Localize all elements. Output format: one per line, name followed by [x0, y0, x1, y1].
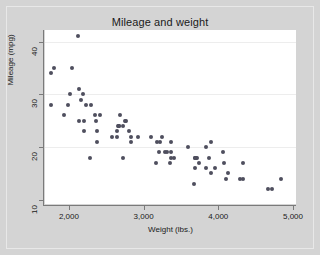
data-point — [186, 145, 190, 149]
data-point — [115, 129, 119, 133]
data-point — [270, 187, 274, 191]
y-axis-title-wrap: Mileage (mpg) — [22, 30, 36, 204]
data-point — [94, 119, 98, 123]
data-point — [77, 87, 81, 91]
data-point — [279, 177, 283, 181]
data-point — [81, 92, 85, 96]
gridline-y-40 — [45, 42, 296, 43]
x-tick-4000 — [218, 206, 219, 210]
x-tick-label-2000: 2,000 — [49, 212, 89, 221]
data-point — [82, 119, 86, 123]
data-point — [123, 119, 127, 123]
data-point — [209, 140, 213, 144]
data-point — [154, 161, 158, 165]
chart-title: Mileage and weight — [0, 16, 320, 28]
data-point — [77, 119, 81, 123]
data-point — [121, 156, 125, 160]
data-point — [169, 140, 173, 144]
x-tick-2000 — [69, 206, 70, 210]
data-point — [160, 135, 164, 139]
data-point — [66, 103, 70, 107]
data-point — [224, 177, 228, 181]
data-point — [209, 171, 213, 175]
data-point — [95, 140, 99, 144]
y-axis-title: Mileage (mpg) — [6, 0, 15, 147]
x-tick-label-4000: 4,000 — [198, 212, 238, 221]
data-point — [70, 66, 74, 70]
data-point — [49, 71, 53, 75]
data-point — [82, 129, 86, 133]
data-point — [89, 103, 93, 107]
data-point — [226, 171, 230, 175]
y-tick-40 — [39, 42, 43, 43]
data-point — [169, 150, 173, 154]
data-point — [93, 113, 97, 117]
data-point — [241, 161, 245, 165]
data-point — [62, 113, 66, 117]
x-tick-3000 — [144, 206, 145, 210]
y-axis-line — [43, 30, 44, 205]
data-point — [79, 98, 83, 102]
data-point — [98, 113, 102, 117]
y-tick-30 — [39, 94, 43, 95]
x-tick-5000 — [293, 206, 294, 210]
y-tick-10 — [39, 200, 43, 201]
data-point — [121, 124, 125, 128]
data-point — [129, 140, 133, 144]
data-point — [149, 135, 153, 139]
data-point — [136, 135, 140, 139]
data-point — [168, 161, 172, 165]
data-point — [88, 156, 92, 160]
data-point — [157, 150, 161, 154]
data-point — [204, 166, 208, 170]
x-tick-label-3000: 3,000 — [124, 212, 164, 221]
x-axis-line — [43, 205, 296, 206]
data-point — [52, 66, 56, 70]
data-point — [169, 156, 173, 160]
data-point — [193, 166, 197, 170]
data-point — [129, 135, 133, 139]
data-point — [117, 124, 121, 128]
data-point — [76, 34, 80, 38]
data-point — [197, 161, 201, 165]
y-tick-20 — [39, 147, 43, 148]
data-point — [165, 150, 169, 154]
data-point — [49, 103, 53, 107]
data-point — [115, 135, 119, 139]
data-point — [222, 161, 226, 165]
gridline-y-20 — [45, 147, 296, 148]
data-point — [204, 145, 208, 149]
data-point — [68, 92, 72, 96]
data-point — [95, 129, 99, 133]
plot-area — [45, 30, 296, 204]
data-point — [192, 182, 196, 186]
data-point — [127, 129, 131, 133]
data-point — [158, 140, 162, 144]
data-point — [221, 150, 225, 154]
x-axis-title: Weight (lbs.) — [45, 225, 296, 234]
data-point — [84, 103, 88, 107]
data-point — [207, 156, 211, 160]
data-point — [241, 177, 245, 181]
data-point — [213, 166, 217, 170]
figure-canvas: Mileage and weight 10203040 2,0003,0004,… — [0, 0, 320, 255]
data-point — [118, 113, 122, 117]
data-point — [193, 156, 197, 160]
x-tick-label-5000: 5,000 — [273, 212, 313, 221]
data-point — [110, 135, 114, 139]
